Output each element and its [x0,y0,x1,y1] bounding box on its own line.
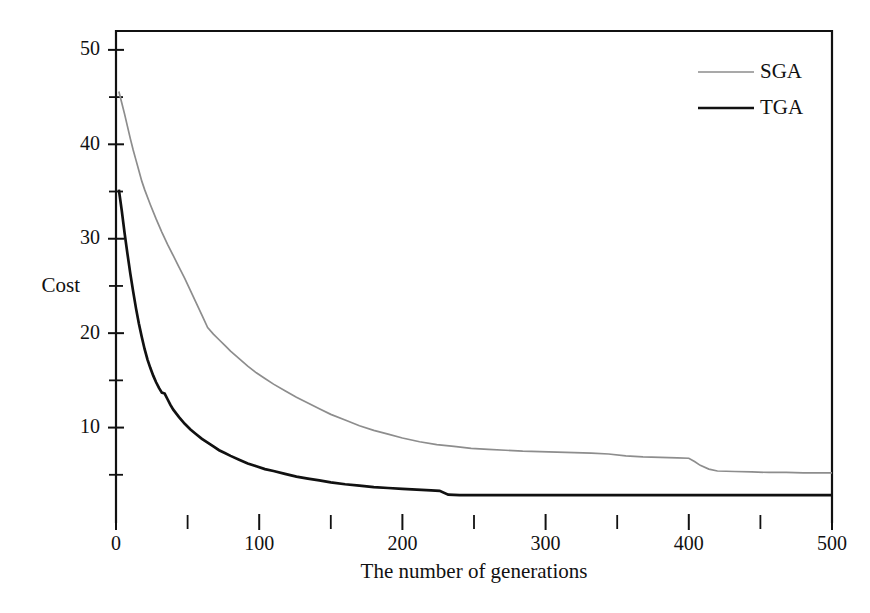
series-layer [119,91,832,495]
chart-legend: SGATGA [698,59,804,119]
legend-label-sga: SGA [760,59,803,83]
y-axis-tick-labels: 1020304050 [80,37,100,437]
y-tick-label: 30 [80,226,100,248]
x-tick-label: 500 [817,532,847,554]
x-tick-label: 100 [244,532,274,554]
y-tick-label: 10 [80,415,100,437]
y-axis-title: Cost [41,273,80,297]
chart-figure: 1020304050 0100200300400500 Cost The num… [0,0,870,613]
x-axis-ticks [116,514,832,530]
x-tick-label: 300 [531,532,561,554]
legend-label-tga: TGA [760,95,804,119]
x-tick-label: 0 [111,532,121,554]
series-line-sga [119,91,832,472]
cost-vs-generations-chart: 1020304050 0100200300400500 Cost The num… [0,0,870,613]
x-axis-tick-labels: 0100200300400500 [111,532,847,554]
x-tick-label: 400 [674,532,704,554]
y-tick-label: 40 [80,132,100,154]
x-axis-title: The number of generations [361,559,588,583]
y-tick-label: 20 [80,321,100,343]
x-tick-label: 200 [387,532,417,554]
y-tick-label: 50 [80,37,100,59]
